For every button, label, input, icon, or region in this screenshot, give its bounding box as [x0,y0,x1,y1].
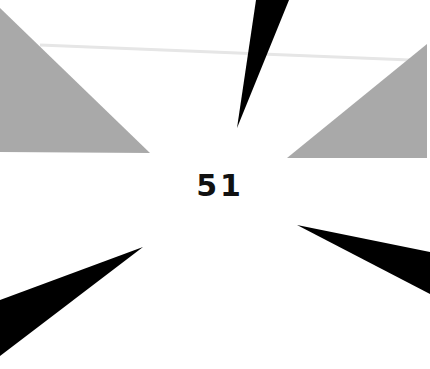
countdown-number: 51 [0,166,430,206]
gray-triangle-left [0,8,150,153]
faint-line [40,45,410,60]
black-spike-left [0,247,143,356]
black-spike-top [237,0,289,128]
gray-triangle-right [287,44,427,158]
black-spike-right [297,225,430,294]
